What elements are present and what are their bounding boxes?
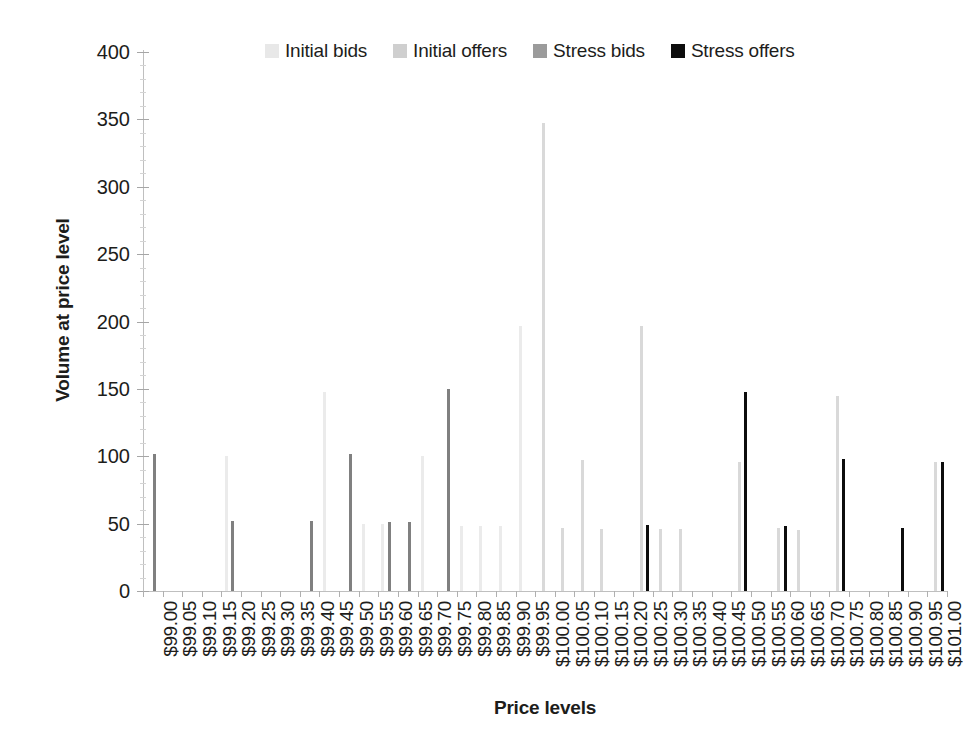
x-tick-label: $100.65 [807, 601, 829, 667]
x-tick-mark [221, 591, 222, 597]
x-tick-mark [594, 591, 595, 597]
bar-chart: Initial bidsInitial offersStress bidsStr… [0, 0, 967, 743]
bar-group [418, 52, 438, 591]
x-tick-label: $99.35 [297, 601, 319, 657]
bar [499, 526, 502, 591]
bar [362, 524, 365, 591]
bar-group [555, 52, 575, 591]
x-tick-mark [457, 591, 458, 597]
bar-group [692, 52, 712, 591]
bar [381, 524, 384, 591]
x-tick-mark [614, 591, 615, 597]
bar-group [927, 52, 947, 591]
x-tick-label: $100.35 [689, 601, 711, 667]
bar-group [280, 52, 300, 591]
x-tick-mark [555, 591, 556, 597]
x-tick-mark [829, 591, 830, 597]
bar [744, 392, 747, 591]
bar-group [810, 52, 830, 591]
x-tick-mark [947, 591, 948, 597]
bar-group [712, 52, 732, 591]
x-tick-mark [535, 591, 536, 597]
x-tick-mark [516, 591, 517, 597]
x-tick-label: $100.10 [591, 601, 613, 667]
bar-group [633, 52, 653, 591]
y-tick-label: 300 [72, 175, 130, 198]
bar-group [457, 52, 477, 591]
x-tick-mark [143, 591, 144, 597]
bar [842, 459, 845, 591]
x-tick-label: $101.00 [944, 601, 966, 667]
bar [479, 526, 482, 591]
bar-group [202, 52, 222, 591]
x-axis-line [143, 591, 947, 592]
bar [408, 522, 411, 591]
x-tick-mark [849, 591, 850, 597]
y-tick-label: 400 [72, 41, 130, 64]
x-tick-label: $99.50 [356, 601, 378, 657]
x-tick-label: $100.50 [748, 601, 770, 667]
x-tick-label: $99.20 [238, 601, 260, 657]
x-tick-mark [359, 591, 360, 597]
bar [388, 522, 391, 591]
y-tick-label: 200 [72, 310, 130, 333]
x-tick-mark [300, 591, 301, 597]
bar [231, 521, 234, 591]
bar-group [339, 52, 359, 591]
bar [659, 529, 662, 591]
bar [447, 389, 450, 591]
bar [934, 462, 937, 591]
x-tick-mark [319, 591, 320, 597]
x-tick-mark [182, 591, 183, 597]
bar-group [869, 52, 889, 591]
x-tick-mark [692, 591, 693, 597]
bar [561, 528, 564, 591]
x-tick-label: $100.75 [846, 601, 868, 667]
x-tick-label: $100.90 [905, 601, 927, 667]
x-tick-mark [908, 591, 909, 597]
x-tick-mark [712, 591, 713, 597]
x-tick-label: $99.45 [336, 601, 358, 657]
bar [542, 123, 545, 591]
x-tick-mark [398, 591, 399, 597]
bar-group [476, 52, 496, 591]
x-tick-mark [888, 591, 889, 597]
bar-group [221, 52, 241, 591]
x-tick-mark [633, 591, 634, 597]
x-tick-label: $99.75 [454, 601, 476, 657]
x-axis-title: Price levels [143, 697, 947, 719]
bar [777, 528, 780, 591]
bar-group [849, 52, 869, 591]
bar-group [829, 52, 849, 591]
x-tick-mark [574, 591, 575, 597]
x-tick-label: $100.25 [650, 601, 672, 667]
bar-group [143, 52, 163, 591]
bar [421, 456, 424, 591]
y-tick-label: 150 [72, 377, 130, 400]
bar-group [653, 52, 673, 591]
x-tick-mark [731, 591, 732, 597]
bar-group [574, 52, 594, 591]
bar-group [496, 52, 516, 591]
bar [349, 454, 352, 591]
bar [941, 462, 944, 591]
bar [679, 529, 682, 591]
bar-group [163, 52, 183, 591]
x-tick-mark [339, 591, 340, 597]
x-tick-mark [869, 591, 870, 597]
bar-group [182, 52, 202, 591]
bar [323, 392, 326, 591]
bar-group [594, 52, 614, 591]
x-tick-mark [378, 591, 379, 597]
bar-group [300, 52, 320, 591]
bar [581, 460, 584, 591]
y-tick-label: 0 [72, 580, 130, 603]
bar-group [437, 52, 457, 591]
bar [600, 529, 603, 591]
bar [640, 326, 643, 591]
plot-area [143, 52, 947, 591]
x-tick-mark [771, 591, 772, 597]
bar-group [731, 52, 751, 591]
bar [519, 326, 522, 591]
x-tick-mark [280, 591, 281, 597]
